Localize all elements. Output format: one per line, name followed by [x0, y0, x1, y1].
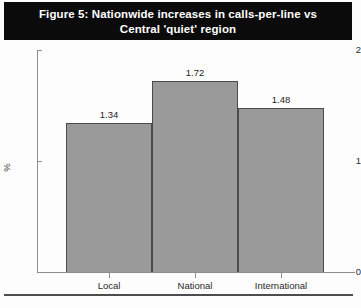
x-axis-label-international: International [255, 280, 307, 291]
bar-local [66, 123, 152, 273]
x-axis-baseline [37, 272, 355, 273]
figure-title-line-1: Figure 5: Nationwide increases in calls-… [39, 7, 317, 22]
x-axis-tick-international [281, 273, 282, 278]
bottom-divider [4, 294, 353, 296]
y-axis-tick-1 [37, 161, 42, 162]
chart-plot-area: 2 1 0 % 1.34 1.72 1.48 Local National In… [0, 40, 361, 294]
bar-international [238, 108, 324, 273]
figure-container: Figure 5: Nationwide increases in calls-… [0, 0, 361, 308]
x-axis-label-local: Local [98, 280, 121, 291]
y-axis-title: % [1, 163, 12, 171]
bar-national [152, 81, 238, 273]
x-axis-tick-national [195, 273, 196, 278]
bar-value-international: 1.48 [272, 94, 291, 105]
figure-title-banner: Figure 5: Nationwide increases in calls-… [4, 2, 352, 40]
y-axis-label-2: 2 [333, 45, 361, 55]
figure-title-line-2: Central 'quiet' region [120, 22, 236, 37]
y-axis-tick-2 [37, 50, 42, 51]
x-axis-label-national: National [178, 280, 213, 291]
y-axis-label-1: 1 [333, 156, 361, 166]
bar-value-local: 1.34 [100, 109, 119, 120]
bar-value-national: 1.72 [186, 67, 205, 78]
x-axis-tick-local [109, 273, 110, 278]
